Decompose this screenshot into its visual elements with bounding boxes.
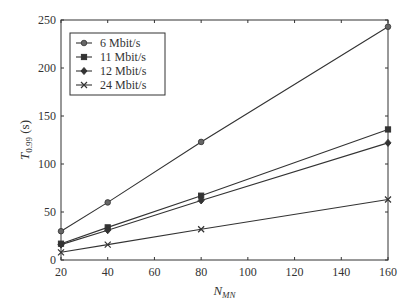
legend-label: 6 Mbit/s bbox=[100, 36, 141, 50]
x-tick-label: 40 bbox=[102, 265, 114, 279]
x-tick-label: 60 bbox=[148, 265, 160, 279]
x-tick-label: 120 bbox=[286, 265, 304, 279]
series-12-mbit-s bbox=[58, 139, 391, 248]
y-tick-label: 150 bbox=[38, 109, 56, 123]
y-tick-label: 250 bbox=[38, 13, 56, 27]
legend-label: 24 Mbit/s bbox=[100, 78, 147, 92]
y-tick-label: 50 bbox=[44, 205, 56, 219]
y-axis-label: T0.99 (s) bbox=[17, 120, 34, 160]
chart-canvas: 20406080100120140160050100150200250NMNT0… bbox=[0, 0, 416, 305]
x-axis-label: NMN bbox=[212, 283, 236, 300]
y-tick-label: 0 bbox=[50, 253, 56, 267]
legend-label: 11 Mbit/s bbox=[100, 50, 146, 64]
x-tick-label: 100 bbox=[239, 265, 257, 279]
line-chart: 20406080100120140160050100150200250NMNT0… bbox=[0, 0, 416, 305]
x-tick-label: 140 bbox=[332, 265, 350, 279]
y-tick-label: 200 bbox=[38, 61, 56, 75]
x-tick-label: 20 bbox=[55, 265, 67, 279]
legend: 6 Mbit/s11 Mbit/s12 Mbit/s24 Mbit/s bbox=[70, 33, 165, 95]
x-tick-label: 160 bbox=[379, 265, 397, 279]
y-tick-label: 100 bbox=[38, 157, 56, 171]
x-tick-label: 80 bbox=[195, 265, 207, 279]
legend-label: 12 Mbit/s bbox=[100, 64, 147, 78]
